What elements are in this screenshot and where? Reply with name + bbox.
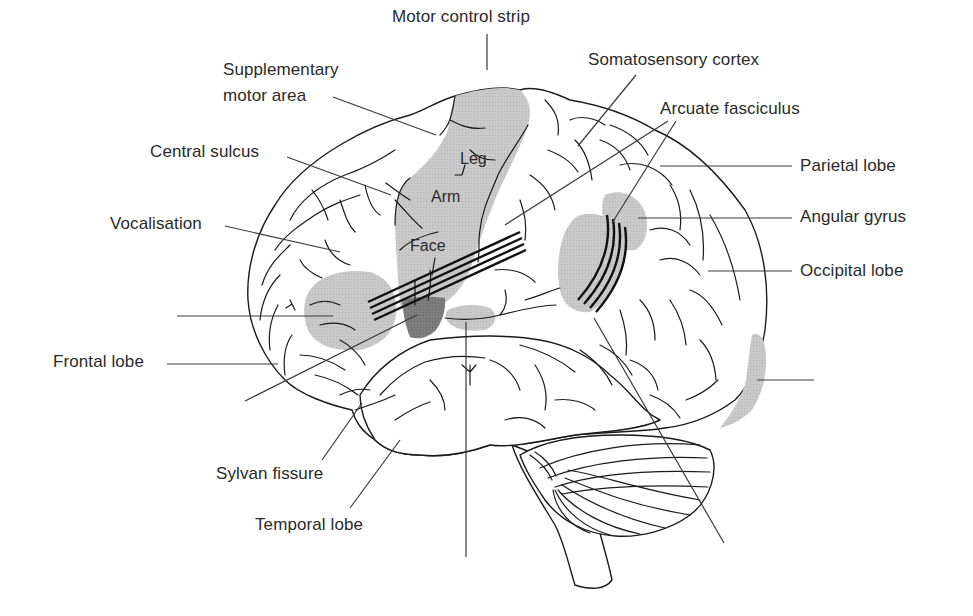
label-frontal-lobe: Frontal lobe (53, 352, 144, 372)
label-supplementary-motor-area-line1: Supplementary (223, 60, 339, 80)
label-parietal-lobe: Parietal lobe (800, 156, 896, 176)
frontal-speech-region (304, 271, 396, 350)
label-supplementary-motor-area-line2: motor area (223, 86, 306, 106)
label-motor-control-strip: Motor control strip (392, 7, 530, 27)
label-sylvan-fissure: Sylvan fissure (216, 464, 323, 484)
label-face: Face (410, 237, 446, 255)
brain-illustration (0, 0, 973, 616)
label-leg: Leg (460, 150, 487, 168)
label-arcuate-fasciculus: Arcuate fasciculus (660, 99, 800, 119)
label-somatosensory-cortex: Somatosensory cortex (588, 50, 759, 70)
label-central-sulcus: Central sulcus (150, 142, 259, 162)
label-vocalisation: Vocalisation (110, 214, 202, 234)
brain-diagram: Motor control strip Supplementary motor … (0, 0, 973, 616)
label-occipital-lobe: Occipital lobe (800, 261, 903, 281)
leader-temporal-lobe (350, 440, 400, 508)
label-arm: Arm (431, 188, 460, 206)
leader-sylvan-fissure (322, 403, 362, 460)
label-temporal-lobe: Temporal lobe (255, 515, 363, 535)
label-angular-gyrus: Angular gyrus (800, 207, 906, 227)
